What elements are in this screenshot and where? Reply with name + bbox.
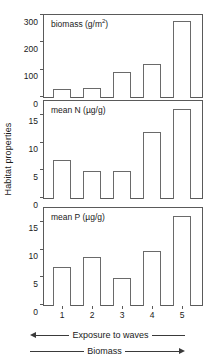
bar: [143, 64, 162, 98]
y-tick-label: 5: [33, 280, 43, 289]
biomass-rule-right: [125, 351, 179, 352]
exposure-rule-left: [36, 335, 69, 336]
y-tick-mark: [40, 221, 43, 222]
y-tick-mark: [40, 69, 43, 70]
y-tick-mark: [40, 96, 43, 97]
bar: [53, 267, 72, 306]
group-y-axis-label: Habitat properties: [0, 0, 16, 318]
y-tick-mark: [40, 142, 43, 143]
figure-root: Habitat properties biomass (g/m2) 010020…: [0, 0, 209, 364]
bar: [53, 89, 72, 98]
panel-mean-p-title: mean P (µg/g): [51, 212, 105, 222]
y-tick-mark: [40, 169, 43, 170]
y-tick-mark: [40, 197, 43, 198]
panel-biomass: biomass (g/m2) 0100200300: [43, 14, 203, 98]
bar: [143, 251, 162, 306]
panel-biomass-title-main: biomass (g/m: [51, 19, 102, 29]
panel-biomass-title-tail: ): [105, 19, 108, 29]
panel-biomass-title: biomass (g/m2): [51, 19, 108, 29]
y-tick-label: 15: [29, 225, 43, 234]
x-tick-mark: [62, 306, 63, 309]
x-tick-mark: [182, 306, 183, 309]
y-tick-label: 10: [29, 252, 43, 261]
y-tick-mark: [40, 276, 43, 277]
y-tick-label: 200: [24, 45, 43, 54]
x-tick-label: 5: [180, 311, 185, 320]
x-tick-mark: [152, 306, 153, 309]
x-tick-label: 2: [90, 311, 95, 320]
x-tick-label: 4: [150, 311, 155, 320]
arrow-right-icon: [179, 348, 185, 354]
bar: [113, 72, 132, 98]
bar: [83, 257, 102, 306]
y-tick-mark: [40, 14, 43, 15]
y-tick-label: 5: [33, 173, 43, 182]
bar: [143, 132, 162, 199]
exposure-axis-legend: Exposure to waves: [30, 328, 185, 342]
bar: [173, 21, 192, 98]
bar: [173, 216, 192, 306]
panel-mean-n-title: mean N (µg/g): [51, 105, 106, 115]
y-tick-label: 15: [29, 118, 43, 127]
x-tick-mark: [92, 306, 93, 309]
bar: [173, 109, 192, 199]
panel-mean-p: mean P (µg/g) 05101512345: [43, 207, 203, 306]
bar: [113, 278, 132, 306]
y-tick-label: 100: [24, 72, 43, 81]
x-tick-label: 3: [120, 311, 125, 320]
bar: [53, 160, 72, 199]
y-tick-mark: [40, 114, 43, 115]
y-tick-label: 0: [33, 308, 43, 317]
y-tick-mark: [40, 41, 43, 42]
y-tick-label: 10: [29, 145, 43, 154]
bar: [83, 88, 102, 98]
exposure-axis-label: Exposure to waves: [69, 330, 151, 340]
x-tick-label: 1: [60, 311, 65, 320]
x-tick-mark: [122, 306, 123, 309]
y-tick-label: 300: [24, 18, 43, 27]
panel-mean-n: mean N (µg/g) 051015: [43, 100, 203, 199]
y-tick-mark: [40, 304, 43, 305]
bar: [83, 171, 102, 199]
exposure-rule-right: [152, 335, 185, 336]
y-tick-label: 0: [33, 100, 43, 109]
y-tick-label: 0: [33, 201, 43, 210]
group-y-axis-label-text: Habitat properties: [3, 123, 13, 196]
biomass-axis-label: Biomass: [84, 346, 125, 356]
biomass-rule-left: [30, 351, 84, 352]
biomass-axis-legend: Biomass: [30, 344, 185, 358]
bar: [113, 171, 132, 199]
y-tick-mark: [40, 249, 43, 250]
